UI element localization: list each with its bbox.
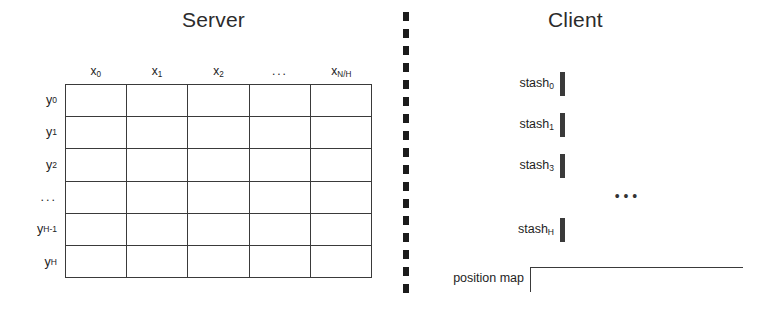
column-header-ellipsis: ...: [249, 60, 310, 86]
column-header-base: ...: [272, 64, 288, 78]
server-grid-cell: [250, 117, 311, 149]
server-grid-cell: [250, 85, 311, 117]
server-grid-cell: [188, 85, 249, 117]
server-grid-cell: [188, 149, 249, 181]
stash-label-base: stash: [519, 158, 549, 172]
column-header-sub: 2: [219, 70, 224, 79]
row-header-base: ...: [41, 190, 57, 204]
server-title: Server: [182, 8, 245, 32]
stash-cell: [564, 219, 565, 242]
server-grid-cell: [66, 214, 127, 246]
server-grid-cell: [127, 214, 188, 246]
client-stash-ellipsis: • • •: [560, 188, 692, 204]
stash-label-base: stash: [518, 222, 548, 236]
row-header-sub: H: [51, 257, 57, 267]
server-grid-cell: [188, 117, 249, 149]
row-header-sub: 2: [52, 160, 57, 170]
server-grid-cell: [311, 149, 372, 181]
column-header-x2: x2: [188, 60, 249, 86]
server-grid-cell: [66, 117, 127, 149]
server-grid-cell: [250, 246, 311, 278]
server-grid-cell: [311, 85, 372, 117]
server-grid-cell: [127, 182, 188, 214]
position-map-cell: [658, 268, 679, 292]
server-grid-cell: [127, 117, 188, 149]
row-header-y0: y0: [18, 84, 61, 116]
server-grid-cell: [311, 117, 372, 149]
server-grid-cell: [66, 149, 127, 181]
position-map-cell: [595, 268, 616, 292]
column-header-sub: 0: [96, 70, 101, 79]
server-grid-cell: [66, 85, 127, 117]
stash-cell: [564, 155, 565, 178]
stash-cell: [564, 73, 565, 96]
stash-label-sub: 1: [549, 123, 554, 133]
server-grid-cell: [188, 246, 249, 278]
position-map-cell: [531, 268, 552, 292]
row-header-yh: yH: [18, 246, 61, 278]
stash-label-0: stash0: [519, 76, 554, 91]
row-header-sub: H-1: [43, 224, 57, 234]
server-grid-cell: [188, 214, 249, 246]
position-map-cells: [530, 267, 743, 292]
stash-label-3: stash3: [519, 158, 554, 173]
position-map-cell: [679, 268, 700, 292]
server-row-headers: y0 y1 y2 ... yH-1 yH: [18, 84, 61, 278]
row-header-y1: y1: [18, 116, 61, 148]
position-map-cell: [701, 268, 722, 292]
server-grid-cell: [250, 182, 311, 214]
server-grid-cell: [66, 182, 127, 214]
row-header-y2: y2: [18, 149, 61, 181]
client-panel: Client stash0 stash1 stash3: [410, 0, 771, 311]
column-header-sub: 1: [158, 70, 163, 79]
position-map-cell: [616, 268, 637, 292]
row-header-sub: 1: [52, 127, 57, 137]
stash-cells-h: [560, 218, 565, 242]
server-grid-cell: [311, 246, 372, 278]
server-panel: Server x0 x1 x2 ... xN/H y0 y1 y2 ...: [0, 0, 400, 311]
server-grid-cell: [250, 149, 311, 181]
row-header-sub: 0: [52, 95, 57, 105]
server-grid-cell: [250, 214, 311, 246]
stash-label-sub: 3: [549, 164, 554, 174]
row-header-ellipsis: ...: [18, 181, 61, 213]
column-header-sub: N/H: [337, 70, 351, 79]
server-grid-cell: [188, 182, 249, 214]
server-grid-cell: [127, 149, 188, 181]
stash-label-sub: H: [548, 228, 554, 238]
stash-row-0: stash0: [560, 72, 692, 96]
panel-divider: [403, 12, 409, 301]
server-data-grid: [65, 84, 372, 278]
position-map-cell: [722, 268, 743, 292]
position-map-cell: [573, 268, 594, 292]
server-grid-cell: [127, 85, 188, 117]
stash-row-1: stash1: [560, 113, 692, 137]
row-header-yh-1: yH-1: [18, 213, 61, 245]
stash-label-h: stashH: [518, 222, 554, 237]
stash-cells-1: [560, 113, 565, 137]
server-grid-cell: [311, 214, 372, 246]
server-column-headers: x0 x1 x2 ... xN/H: [65, 60, 372, 82]
client-title: Client: [548, 8, 603, 32]
server-grid-cell: [127, 246, 188, 278]
column-header-x1: x1: [126, 60, 187, 86]
column-header-x0: x0: [65, 60, 126, 86]
stash-label-sub: 0: [549, 82, 554, 92]
position-map-cell: [637, 268, 658, 292]
stash-row-3: stash3: [560, 154, 692, 178]
stash-label-1: stash1: [519, 117, 554, 132]
stash-cells-0: [560, 72, 565, 96]
stash-cells-3: [560, 154, 565, 178]
stash-label-base: stash: [519, 117, 549, 131]
stash-row-h: stashH: [560, 218, 692, 242]
position-map-cell: [552, 268, 573, 292]
column-header-xnh: xN/H: [311, 60, 372, 86]
server-grid-cell: [66, 246, 127, 278]
stash-label-base: stash: [519, 76, 549, 90]
position-map-label: position map: [453, 271, 524, 285]
server-grid-cell: [311, 182, 372, 214]
stash-cell: [564, 114, 565, 137]
